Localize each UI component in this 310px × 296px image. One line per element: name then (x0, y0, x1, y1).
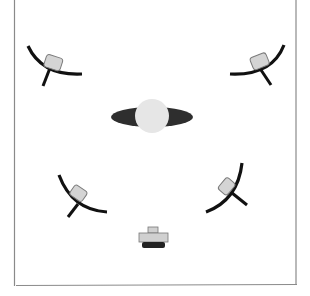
light-top-left (28, 46, 82, 86)
camera-viewfinder-icon (148, 227, 158, 233)
subject (111, 99, 193, 133)
camera-base-icon (142, 242, 165, 248)
light-stand-icon (43, 68, 50, 86)
light-stand-icon (68, 204, 78, 217)
light-bottom-left (59, 175, 107, 217)
light-stand-icon (261, 70, 271, 85)
camera (139, 227, 168, 248)
subject-head-icon (135, 99, 169, 133)
light-bottom-right (206, 163, 247, 212)
light-top-right (230, 45, 284, 85)
lamp-head-icon (43, 54, 63, 72)
light-stand-icon (232, 193, 247, 205)
lighting-diagram (0, 0, 310, 296)
camera-body-icon (139, 233, 168, 242)
lamp-head-icon (69, 184, 88, 202)
